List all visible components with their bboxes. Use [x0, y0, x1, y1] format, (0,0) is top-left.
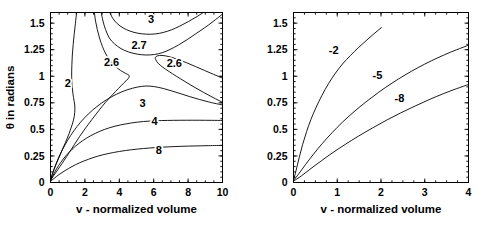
x-tick-label: 1: [334, 186, 340, 198]
y-tick-label: 0.5: [30, 123, 45, 135]
contour-value-label: 3: [139, 97, 145, 109]
y-tick-label: 0.5: [273, 123, 288, 135]
x-tick-label: 3: [422, 186, 428, 198]
x-tick-label: 10: [217, 186, 229, 198]
x-tick-label: 4: [116, 186, 122, 198]
y-tick-label: 0.75: [267, 96, 288, 108]
contour-curve-contour-3-saddle-lower: [51, 86, 223, 180]
contour-curves: [294, 27, 469, 181]
y-tick-label: 1: [39, 70, 45, 82]
y-axis-title: θ in radians: [4, 66, 16, 130]
contour-value-label: 8: [156, 144, 162, 156]
x-tick-label: 8: [185, 186, 191, 198]
contour-value-label: 2.6: [167, 57, 182, 69]
x-tick-label: 2: [378, 186, 384, 198]
x-axis-title: v - normalized volume: [76, 203, 197, 215]
contour-curve-contour-3-upper: [110, 11, 206, 34]
contour-value-label: 3: [148, 13, 154, 25]
contour-curve-contour-2.6-right-nose: [155, 55, 222, 102]
figure-canvas: 024681000.250.50.7511.251.5332.72.72.62.…: [0, 0, 486, 230]
x-tick-label: 6: [151, 186, 157, 198]
x-tick-label: 0: [48, 186, 54, 198]
contour-figure: 024681000.250.50.7511.251.5332.72.72.62.…: [0, 0, 486, 230]
x-tick-label: 4: [466, 186, 472, 198]
y-tick-label: 1.25: [267, 43, 288, 55]
contour-curve-contour-minus-5: [294, 45, 469, 180]
y-tick-label: 0.75: [24, 96, 45, 108]
panel-left: 024681000.250.50.7511.251.5332.72.72.62.…: [4, 11, 228, 215]
contour-value-label: 2: [65, 77, 71, 89]
contour-value-label: 4: [151, 115, 158, 127]
x-axis-title: v - normalized volume: [321, 203, 442, 215]
x-tick-label: 2: [82, 186, 88, 198]
y-tick-label: 0: [282, 176, 288, 188]
contour-curve-contour-2.6-upper-left: [51, 13, 130, 181]
contour-curve-contour-4: [51, 120, 223, 180]
plot-frame: [294, 13, 469, 183]
y-tick-label: 1.25: [24, 43, 45, 55]
contour-curve-contour-2.7-upper: [101, 13, 222, 56]
x-tick-label: 0: [291, 186, 297, 198]
contour-value-label: 2.7: [131, 39, 146, 51]
y-tick-label: 1.5: [30, 17, 45, 29]
y-tick-label: 0: [39, 176, 45, 188]
contour-value-label: -5: [373, 69, 383, 81]
contour-value-label: 2.6: [104, 56, 119, 68]
panel-right: 0123400.250.50.7511.251.5-2-2-5-5-8-8v -…: [267, 13, 472, 215]
y-tick-label: 1.5: [273, 17, 288, 29]
contour-curve-contour-8: [51, 145, 223, 181]
contour-value-label: -8: [394, 92, 404, 104]
plot-frame: [51, 13, 223, 183]
y-tick-label: 1: [282, 70, 288, 82]
contour-curves: [51, 11, 223, 181]
y-tick-label: 0.25: [24, 150, 45, 162]
y-tick-label: 0.25: [267, 150, 288, 162]
contour-value-label: -2: [329, 44, 339, 56]
contour-curve-contour-2: [51, 13, 77, 181]
